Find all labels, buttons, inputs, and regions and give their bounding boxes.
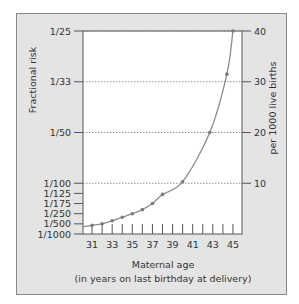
- data-point: [131, 212, 135, 216]
- y-left-tick-label: 1/50: [50, 127, 71, 138]
- y-left-tick-label: 1/25: [50, 26, 71, 37]
- x-axis-title: Maternal age: [132, 259, 195, 270]
- y-axis-right: 10203040: [242, 26, 266, 189]
- data-point: [100, 222, 104, 226]
- risk-chart: 3133353739414345 1/251/331/501/1001/1251…: [0, 0, 299, 304]
- x-tick-label: 39: [167, 239, 179, 250]
- x-tick-label: 43: [207, 239, 219, 250]
- y-axis-left: 1/251/331/501/1001/1251/1751/2501/5001/1…: [38, 26, 83, 240]
- data-point: [208, 131, 212, 135]
- y-right-tick-label: 40: [254, 26, 266, 37]
- x-axis-subtitle: (in years on last birthday at delivery): [75, 273, 252, 284]
- data-point: [110, 219, 114, 223]
- data-point: [231, 29, 235, 33]
- data-point: [161, 193, 165, 197]
- x-tick-label: 41: [187, 239, 199, 250]
- x-tick-label: 31: [86, 239, 98, 250]
- data-point: [181, 180, 185, 184]
- data-point: [120, 215, 124, 219]
- y-axis-right-title: per 1000 live births: [267, 61, 278, 154]
- y-right-tick-label: 20: [254, 127, 266, 138]
- x-tick-label: 35: [126, 239, 138, 250]
- y-axis-left-title: Fractional risk: [27, 46, 38, 113]
- x-tick-label: 45: [227, 239, 239, 250]
- data-point: [141, 208, 145, 212]
- y-right-tick-label: 30: [254, 76, 266, 87]
- y-right-tick-label: 10: [254, 178, 266, 189]
- data-point: [90, 224, 94, 228]
- y-left-tick-label: 1/1000: [38, 229, 71, 240]
- data-point: [151, 202, 155, 206]
- x-tick-label: 37: [146, 239, 158, 250]
- x-tick-label: 33: [106, 239, 118, 250]
- data-point: [225, 72, 229, 76]
- y-left-tick-label: 1/33: [50, 76, 71, 87]
